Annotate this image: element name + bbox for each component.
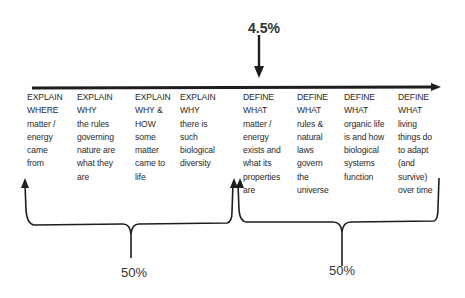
column-line: EXPLAIN — [77, 91, 115, 104]
column-line: WHY & — [135, 104, 171, 117]
column-line: WHERE — [27, 104, 63, 117]
diagram-lines — [0, 0, 465, 298]
left-bracket — [25, 184, 233, 258]
column-line: laws — [297, 144, 329, 157]
column-line: DEFINE — [398, 91, 432, 104]
column-line: DEFINE — [344, 91, 384, 104]
column-line: the rules — [77, 118, 115, 131]
column-line: biological — [344, 144, 384, 157]
column-define-matter: DEFINE WHAT matter / energy exists and w… — [243, 91, 281, 197]
column-define-rules: DEFINE WHAT rules & natural laws govern … — [297, 91, 329, 197]
column-line: over time — [398, 184, 432, 197]
right-bracket-percentage: 50% — [329, 263, 355, 278]
column-line: came — [27, 144, 63, 157]
column-line: DEFINE — [297, 91, 329, 104]
column-line: govern — [297, 157, 329, 170]
column-line: from — [27, 157, 63, 170]
column-explain-why-how: EXPLAIN WHY & HOW some matter came to li… — [135, 91, 171, 184]
left-bracket-percentage: 50% — [121, 265, 147, 280]
column-line: exists and — [243, 144, 281, 157]
column-explain-why-rules: EXPLAIN WHY the rules governing nature a… — [77, 91, 115, 184]
column-line: what they — [77, 157, 115, 170]
column-line: are — [77, 171, 115, 184]
column-line: WHAT — [243, 104, 281, 117]
column-line: universe — [297, 184, 329, 197]
column-line: function — [344, 171, 384, 184]
column-line: the — [297, 171, 329, 184]
column-line: (and — [398, 157, 432, 170]
column-line: what its — [243, 157, 281, 170]
column-line: WHY — [180, 104, 216, 117]
column-line: matter / — [27, 118, 63, 131]
column-line: living — [398, 118, 432, 131]
column-line: such — [180, 131, 216, 144]
column-line: energy — [27, 131, 63, 144]
column-line: EXPLAIN — [180, 91, 216, 104]
column-line: properties — [243, 171, 281, 184]
down-arrow-icon — [254, 35, 264, 78]
column-line: systems — [344, 157, 384, 170]
column-line: life — [135, 171, 171, 184]
column-line: some — [135, 131, 171, 144]
column-line: matter / — [243, 118, 281, 131]
column-line: are — [243, 184, 281, 197]
column-line: DEFINE — [243, 91, 281, 104]
column-line: WHAT — [344, 104, 384, 117]
column-define-organic-life: DEFINE WHAT organic life is and how biol… — [344, 91, 384, 184]
column-explain-why-diversity: EXPLAIN WHY there is such biological div… — [180, 91, 216, 171]
column-line: diversity — [180, 157, 216, 170]
column-line: EXPLAIN — [135, 91, 171, 104]
column-line: WHAT — [398, 104, 432, 117]
column-line: nature are — [77, 144, 115, 157]
column-line: natural — [297, 131, 329, 144]
left-bracket-arrowhead-icon — [21, 178, 29, 188]
column-line: to adapt — [398, 144, 432, 157]
column-line: WHAT — [297, 104, 329, 117]
column-line: there is — [180, 118, 216, 131]
column-line: matter — [135, 144, 171, 157]
column-line: survive) — [398, 171, 432, 184]
column-line: governing — [77, 131, 115, 144]
column-line: came to — [135, 157, 171, 170]
top-percentage-label: 4.5% — [248, 20, 280, 36]
timeline-arrow — [32, 83, 441, 91]
column-line: energy — [243, 131, 281, 144]
column-line: things do — [398, 131, 432, 144]
column-line: HOW — [135, 118, 171, 131]
column-line: is and how — [344, 131, 384, 144]
column-line: WHY — [77, 104, 115, 117]
column-line: organic life — [344, 118, 384, 131]
column-line: EXPLAIN — [27, 91, 63, 104]
column-line: rules & — [297, 118, 329, 131]
column-define-adapt: DEFINE WHAT living things do to adapt (a… — [398, 91, 432, 197]
column-line: biological — [180, 144, 216, 157]
column-explain-where: EXPLAIN WHERE matter / energy came from — [27, 91, 63, 171]
